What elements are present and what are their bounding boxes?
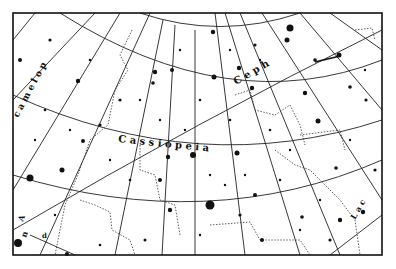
label-andromeda-d: d: [42, 231, 47, 240]
star-chart: C a s s i o p e i a C e p h c a m e l o …: [0, 0, 396, 269]
